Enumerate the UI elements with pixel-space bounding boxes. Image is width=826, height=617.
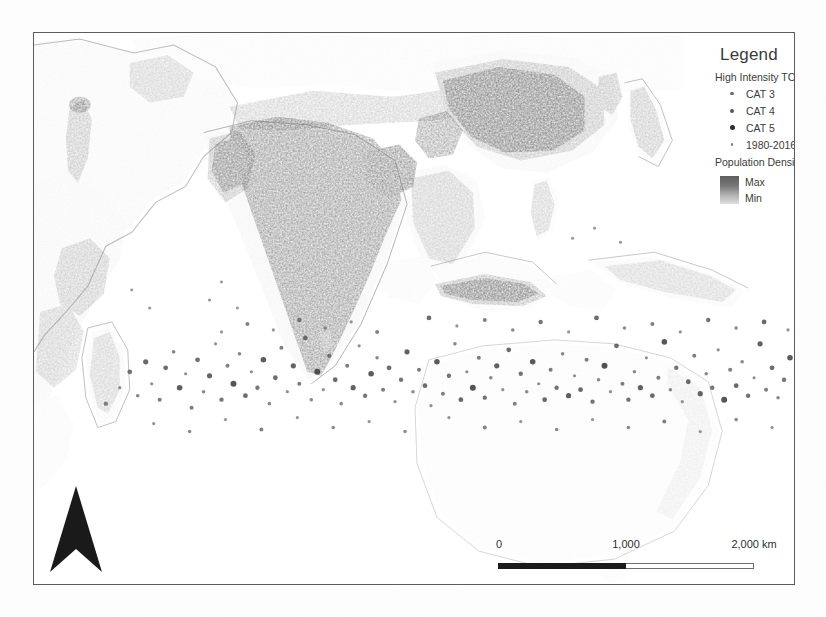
legend-label-all-tcs: 1980-2016 TC's — [746, 139, 795, 151]
legend-label-cat-4: CAT 4 — [746, 105, 775, 117]
ramp-label-min: Min — [745, 192, 765, 204]
scale-bar-track — [498, 563, 754, 569]
scale-label-middle: 1,000 — [612, 538, 640, 550]
legend-item-cat-3[interactable]: CAT 3 — [682, 85, 795, 102]
map-legend: Legend High Intensity TC's CAT 3 CAT 4 — [682, 38, 795, 204]
population-density-ramp-labels: Max Min — [745, 176, 765, 204]
scale-bar-segment-hollow — [626, 563, 754, 569]
legend-tc-symbol-rows: CAT 3 CAT 4 CAT 5 — [682, 85, 795, 153]
legend-label-cat-3: CAT 3 — [746, 88, 775, 100]
scale-bar-segment-filled — [498, 563, 626, 569]
scale-bar: 0 1,000 2,000 km — [496, 538, 766, 554]
cat-3-circle-icon — [730, 92, 733, 95]
legend-heading-high-intensity-tcs: High Intensity TC's — [715, 71, 795, 83]
population-density-gradient-swatch — [720, 176, 739, 204]
map-frame[interactable]: Legend High Intensity TC's CAT 3 CAT 4 — [33, 32, 795, 585]
all-tcs-symbol-cell — [722, 143, 742, 145]
legend-label-cat-5: CAT 5 — [746, 122, 775, 134]
all-tcs-circle-icon — [731, 143, 733, 145]
legend-item-all-tcs[interactable]: 1980-2016 TC's — [682, 136, 795, 153]
legend-heading-population-density: Population Density — [715, 156, 795, 168]
cat-4-circle-icon — [730, 109, 734, 113]
legend-item-cat-5[interactable]: CAT 5 — [682, 119, 795, 136]
cat-3-symbol-cell — [722, 92, 742, 95]
cat-4-symbol-cell — [722, 109, 742, 113]
scale-label-start: 0 — [496, 538, 502, 550]
map-raster-canvas — [34, 33, 794, 584]
cat-5-circle-icon — [730, 125, 735, 130]
scale-label-end: 2,000 km — [731, 538, 776, 550]
legend-item-cat-4[interactable]: CAT 4 — [682, 102, 795, 119]
legend-title: Legend — [720, 45, 795, 65]
page-background: Legend High Intensity TC's CAT 3 CAT 4 — [0, 0, 826, 617]
population-density-ramp-block: Max Min — [720, 176, 795, 204]
scale-bar-labels: 0 1,000 2,000 km — [496, 538, 766, 554]
north-arrow-icon — [47, 483, 105, 575]
ramp-label-max: Max — [745, 176, 765, 188]
cat-5-symbol-cell — [722, 125, 742, 130]
